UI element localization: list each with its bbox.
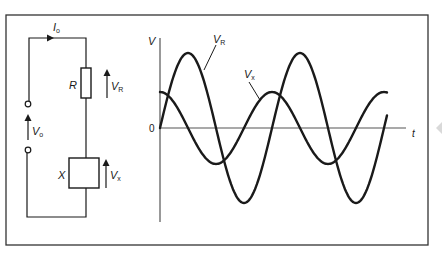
x-axis-label: t <box>412 128 416 139</box>
vx-leader-line <box>249 82 260 100</box>
vr-leader-line <box>204 45 216 70</box>
top-wire <box>29 38 86 101</box>
origin-label: 0 <box>149 123 155 134</box>
bottom-wire <box>27 153 86 217</box>
bottom-terminal <box>25 147 31 153</box>
reactance-voltage-label: Vx <box>110 169 121 182</box>
reactance-label: X <box>57 169 66 181</box>
resistor-voltage-arrow-icon <box>104 69 111 98</box>
current-label: Io <box>53 21 60 34</box>
resistor-symbol <box>81 68 91 98</box>
vr-curve-label: VR <box>213 33 225 46</box>
page-arrow-mark <box>436 122 442 134</box>
top-terminal <box>25 101 31 107</box>
y-axis-label: V <box>148 35 157 47</box>
reactance-voltage-arrow-icon <box>103 159 110 188</box>
resistor-label: R <box>69 79 77 91</box>
source-voltage-label: Vo <box>32 125 43 138</box>
resistor-voltage-label: VR <box>111 80 123 93</box>
reactance-box-symbol <box>69 158 99 188</box>
current-arrow-icon <box>47 35 54 42</box>
source-voltage-arrow-icon <box>25 114 32 140</box>
waveform-graph: V t 0 VR Vx <box>148 33 416 222</box>
vx-curve-label: Vx <box>244 68 255 81</box>
figure: Io Vo R VR X Vx V t 0 VR Vx <box>0 0 442 256</box>
